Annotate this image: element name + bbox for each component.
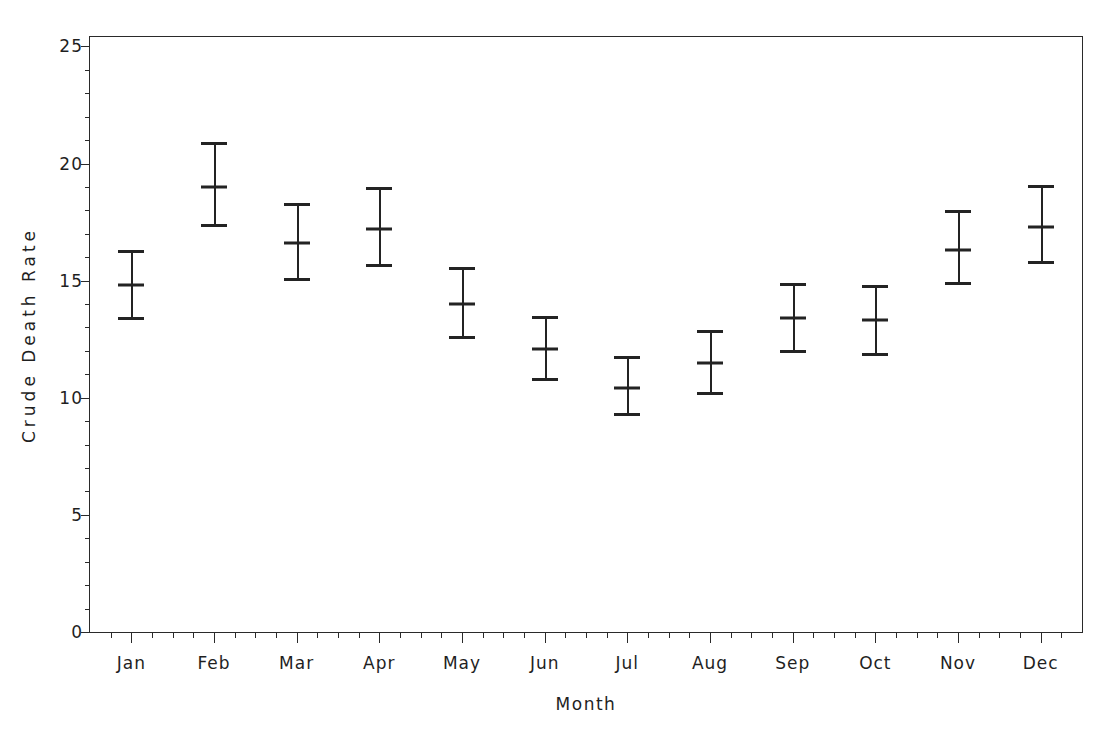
error-bar-lower-cap	[118, 317, 144, 320]
x-axis-minor-tick	[565, 632, 566, 638]
x-axis-tick-label: Apr	[363, 653, 395, 673]
x-axis-minor-tick	[834, 632, 835, 638]
x-axis-tick-label: Jul	[616, 653, 640, 673]
error-bar-upper-cap	[945, 210, 971, 213]
mean-marker	[614, 387, 640, 390]
y-axis-minor-tick	[85, 117, 90, 118]
x-axis-minor-tick	[359, 632, 360, 638]
y-axis-title-text: Crude Death Rate	[19, 226, 39, 442]
y-axis-minor-tick	[85, 421, 90, 422]
x-axis-minor-tick	[524, 632, 525, 638]
mean-marker	[449, 303, 475, 306]
error-bar-lower-cap	[1028, 261, 1054, 264]
x-axis-minor-tick	[855, 632, 856, 638]
y-axis-tick-label: 10	[59, 388, 83, 408]
x-axis-major-tick	[462, 632, 463, 643]
x-axis-title: Month	[89, 694, 1083, 714]
error-bar-lower-cap	[945, 282, 971, 285]
error-bar-upper-cap	[366, 187, 392, 190]
error-bar-lower-cap	[449, 336, 475, 339]
x-axis-major-tick	[297, 632, 298, 643]
x-axis-minor-tick	[937, 632, 938, 638]
x-axis-minor-tick	[483, 632, 484, 638]
error-bar-lower-cap	[201, 224, 227, 227]
x-axis-minor-tick	[173, 632, 174, 638]
x-axis-tick-label: Nov	[940, 653, 976, 673]
error-bar-lower-cap	[780, 350, 806, 353]
error-bar-upper-cap	[532, 316, 558, 319]
x-axis-minor-tick	[917, 632, 918, 638]
x-axis-tick-label: Jan	[117, 653, 146, 673]
x-axis-minor-tick	[152, 632, 153, 638]
y-axis-minor-tick	[85, 351, 90, 352]
y-axis-minor-tick	[85, 491, 90, 492]
x-axis-minor-tick	[607, 632, 608, 638]
x-axis-minor-tick	[751, 632, 752, 638]
error-bar-upper-cap	[201, 142, 227, 145]
y-axis-minor-tick	[85, 234, 90, 235]
x-axis-minor-tick	[400, 632, 401, 638]
x-axis-major-tick	[627, 632, 628, 643]
mean-marker	[697, 361, 723, 364]
x-axis-minor-tick	[669, 632, 670, 638]
x-axis-minor-tick	[317, 632, 318, 638]
y-axis-tick-label: 5	[71, 505, 83, 525]
x-axis-tick-label: May	[443, 653, 481, 673]
x-axis-minor-tick	[193, 632, 194, 638]
x-axis-tick-label: Sep	[775, 653, 810, 673]
error-bar-lower-cap	[366, 264, 392, 267]
mean-marker	[532, 347, 558, 350]
y-axis-minor-tick	[85, 70, 90, 71]
y-axis-minor-tick	[85, 210, 90, 211]
x-axis-tick-label: Mar	[279, 653, 314, 673]
mean-marker	[201, 185, 227, 188]
x-axis-major-tick	[793, 632, 794, 643]
y-axis: 0510152025	[90, 37, 1082, 632]
x-axis-major-tick	[958, 632, 959, 643]
x-axis-minor-tick	[648, 632, 649, 638]
mean-marker	[284, 242, 310, 245]
x-axis-minor-tick	[979, 632, 980, 638]
error-bar-lower-cap	[697, 392, 723, 395]
y-axis-minor-tick	[85, 257, 90, 258]
x-axis-tick-label: Feb	[197, 653, 230, 673]
error-bar-lower-cap	[614, 413, 640, 416]
x-axis-major-tick	[875, 632, 876, 643]
y-axis-tick-label: 20	[59, 154, 83, 174]
x-axis-tick-label: Jun	[530, 653, 560, 673]
x-axis-major-tick	[131, 632, 132, 643]
y-axis-minor-tick	[85, 468, 90, 469]
plot-area: 0510152025 JanFebMarAprMayJunJulAugSepOc…	[89, 36, 1083, 633]
y-axis-minor-tick	[85, 187, 90, 188]
x-axis-major-tick	[710, 632, 711, 643]
x-axis-minor-tick	[235, 632, 236, 638]
x-axis-minor-tick	[1020, 632, 1021, 638]
x-axis-major-tick	[545, 632, 546, 643]
x-axis-minor-tick	[689, 632, 690, 638]
mean-marker	[862, 319, 888, 322]
error-bar-upper-cap	[614, 356, 640, 359]
y-axis-tick-label: 0	[71, 622, 83, 642]
error-bar-upper-cap	[118, 250, 144, 253]
mean-marker	[118, 284, 144, 287]
error-bar-upper-cap	[697, 330, 723, 333]
x-axis-minor-tick	[111, 632, 112, 638]
mean-marker	[1028, 225, 1054, 228]
x-axis-minor-tick	[276, 632, 277, 638]
error-bar-lower-cap	[532, 378, 558, 381]
x-axis-tick-label: Dec	[1023, 653, 1059, 673]
x-axis-minor-tick	[813, 632, 814, 638]
y-axis-minor-tick	[85, 562, 90, 563]
x-axis-minor-tick	[503, 632, 504, 638]
mean-marker	[945, 249, 971, 252]
y-axis-minor-tick	[85, 304, 90, 305]
x-axis-minor-tick	[586, 632, 587, 638]
x-axis-major-tick	[379, 632, 380, 643]
x-axis-minor-tick	[999, 632, 1000, 638]
error-bar-upper-cap	[284, 203, 310, 206]
x-axis-minor-tick	[255, 632, 256, 638]
x-axis-tick-label: Oct	[859, 653, 891, 673]
x-axis-major-tick	[214, 632, 215, 643]
mean-marker	[366, 228, 392, 231]
error-bar-lower-cap	[862, 353, 888, 356]
